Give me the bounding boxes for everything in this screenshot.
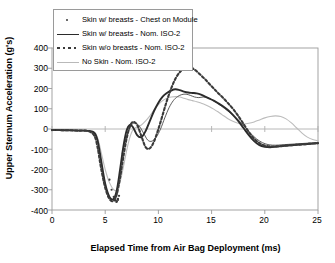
series-lines	[52, 67, 318, 203]
legend: Skin w/ breasts - Chest on Module Skin w…	[53, 9, 193, 71]
legend-item: Skin w/o breasts - Nom. ISO-2	[57, 41, 188, 55]
legend-item: Skin w/ breasts - Nom. ISO-2	[57, 27, 188, 41]
legend-marker-light-line-icon	[57, 56, 79, 68]
legend-item-label: Skin w/ breasts - Chest on Module	[82, 16, 198, 24]
legend-item-label: Skin w/ breasts - Nom. ISO-2	[82, 30, 180, 38]
legend-marker-dashed-line-icon	[57, 42, 79, 54]
legend-marker-solid-line-icon	[57, 28, 79, 40]
legend-item: Skin w/ breasts - Chest on Module	[57, 13, 188, 27]
legend-item-label: No Skin - Nom. ISO-2	[82, 58, 155, 66]
chart-container: Upper Sternum Acceleration (g's) 400 300…	[0, 0, 335, 263]
legend-marker-dot-icon	[57, 14, 79, 26]
legend-item: No Skin - Nom. ISO-2	[57, 55, 188, 69]
legend-item-label: Skin w/o breasts - Nom. ISO-2	[82, 44, 185, 52]
